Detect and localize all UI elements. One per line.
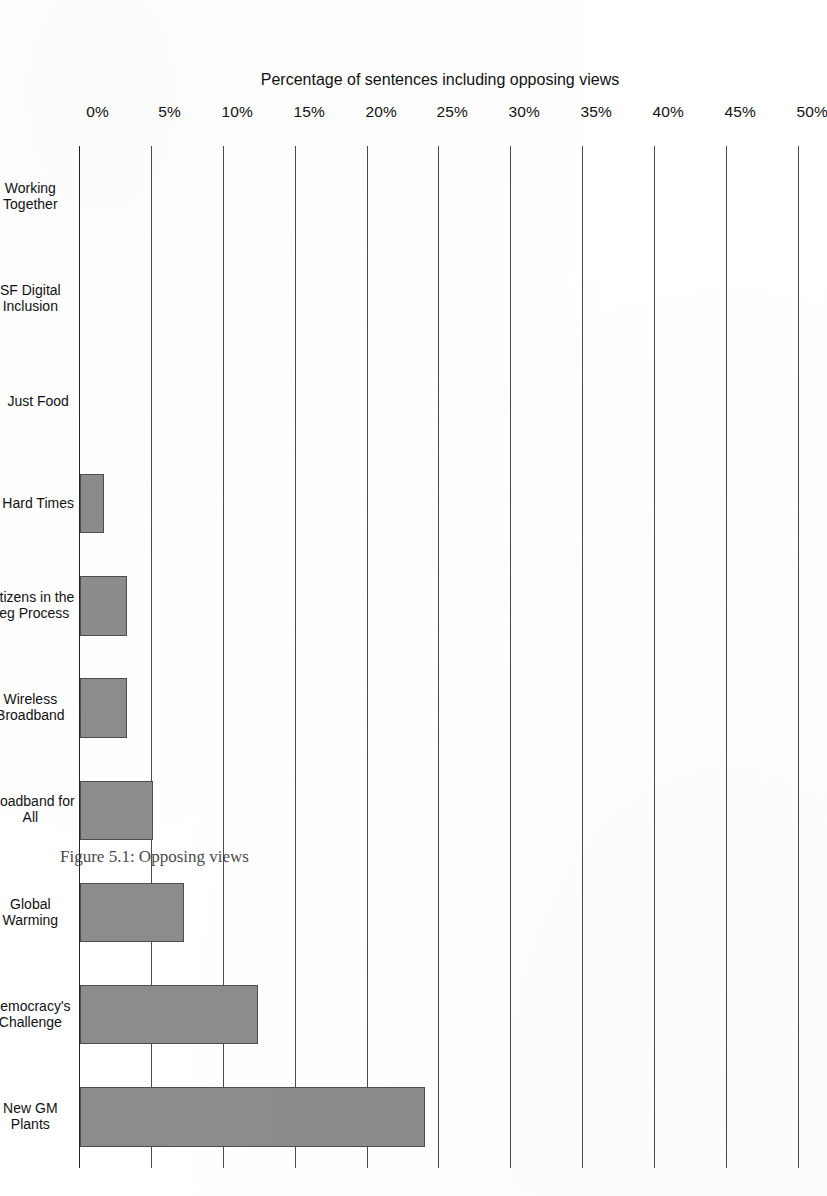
rotated-figure-wrapper: 0%5%10%15%20%25%30%35%40%45%50% Working … [0, 0, 827, 1196]
bar-chart: 0%5%10%15%20%25%30%35%40%45%50% Working … [0, 0, 827, 1196]
category-label: Hard Times [0, 496, 93, 512]
category-label: Wireless Broadband [0, 692, 85, 723]
category-label: Just Food [0, 394, 93, 410]
plot-area [80, 146, 799, 1168]
bar [80, 1087, 425, 1146]
tick-label-15: 15% [269, 103, 325, 121]
tick-label-0: 0% [53, 103, 109, 121]
bar [80, 985, 258, 1044]
tick-label-10: 10% [197, 103, 253, 121]
bar [80, 883, 184, 942]
value-axis-title: Percentage of sentences including opposi… [231, 71, 651, 89]
category-label: SF Digital Inclusion [0, 284, 85, 315]
category-label: Working Together [0, 181, 85, 212]
bar [80, 576, 127, 635]
category-label: Citizens in the Leg Process [0, 590, 85, 621]
category-label: Broadband for All [0, 795, 85, 826]
scanned-page: 0%5%10%15%20%25%30%35%40%45%50% Working … [0, 0, 827, 1196]
bar [80, 781, 153, 840]
gridline-30 [510, 146, 511, 1168]
gridline-25 [439, 146, 440, 1168]
category-label: Democracy's Challenge [0, 999, 85, 1030]
tick-label-45: 45% [700, 103, 756, 121]
tick-label-30: 30% [484, 103, 540, 121]
gridline-35 [582, 146, 583, 1168]
bar [80, 678, 127, 737]
tick-label-40: 40% [628, 103, 684, 121]
gridline-50 [798, 146, 799, 1168]
category-label: Global Warming [0, 897, 85, 928]
tick-label-35: 35% [556, 103, 612, 121]
tick-label-50: 50% [772, 103, 827, 121]
gridline-20 [367, 146, 368, 1168]
gridline-15 [295, 146, 296, 1168]
figure-caption: Figure 5.1: Opposing views [60, 847, 249, 867]
tick-label-25: 25% [413, 103, 469, 121]
gridline-45 [726, 146, 727, 1168]
category-label: New GM Plants [0, 1101, 85, 1132]
gridline-40 [654, 146, 655, 1168]
tick-label-20: 20% [341, 103, 397, 121]
tick-label-5: 5% [125, 103, 181, 121]
